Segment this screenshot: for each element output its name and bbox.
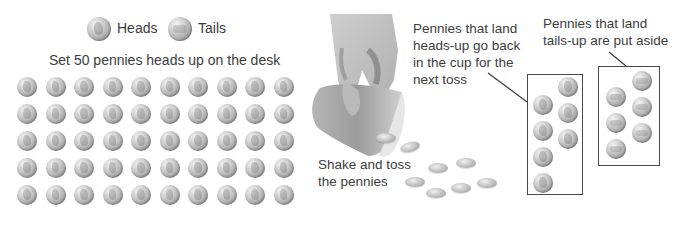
heads-leader-line bbox=[488, 73, 527, 102]
tails-leader-line bbox=[609, 52, 626, 66]
heads-penny bbox=[558, 77, 578, 97]
heads-penny bbox=[533, 173, 553, 193]
tails-penny bbox=[632, 123, 652, 143]
heads-penny bbox=[533, 121, 553, 141]
tails-penny bbox=[632, 97, 652, 117]
tails-box bbox=[598, 66, 660, 166]
tails-penny bbox=[606, 113, 626, 133]
heads-box bbox=[527, 74, 583, 195]
heads-penny bbox=[533, 147, 553, 167]
tails-penny bbox=[606, 139, 626, 159]
tails-penny bbox=[632, 71, 652, 91]
heads-penny bbox=[533, 95, 553, 115]
heads-penny bbox=[558, 129, 578, 149]
heads-penny bbox=[558, 103, 578, 123]
tails-penny bbox=[606, 87, 626, 107]
